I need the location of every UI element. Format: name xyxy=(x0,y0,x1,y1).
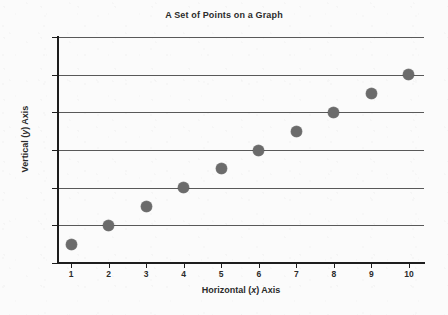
gridline-y-10 xyxy=(58,75,424,76)
y-tick-8 xyxy=(52,112,58,113)
x-tick-label-2: 2 xyxy=(89,269,129,279)
x-axis-label: Horizontal (x) Axis xyxy=(58,285,424,295)
x-tick-2 xyxy=(109,263,110,268)
x-tick-label-3: 3 xyxy=(126,269,166,279)
data-point xyxy=(253,145,264,156)
gridline-y-4 xyxy=(58,188,424,189)
x-tick-8 xyxy=(334,263,335,268)
x-tick-label-8: 8 xyxy=(314,269,354,279)
x-axis-line xyxy=(57,262,425,264)
x-tick-label-1: 1 xyxy=(51,269,91,279)
x-tick-1 xyxy=(71,263,72,268)
x-tick-3 xyxy=(146,263,147,268)
y-tick-6 xyxy=(52,150,58,151)
axis-variable: y xyxy=(20,130,30,135)
x-tick-9 xyxy=(371,263,372,268)
x-tick-5 xyxy=(221,263,222,268)
x-tick-label-6: 6 xyxy=(239,269,279,279)
data-point xyxy=(66,239,77,250)
x-tick-label-10: 10 xyxy=(389,269,429,279)
scatter-chart-figure: A Set of Points on a Graph Horizontal (x… xyxy=(0,0,448,315)
axis-variable: x xyxy=(251,285,256,295)
plot-area xyxy=(58,37,424,263)
data-point xyxy=(291,126,302,137)
gridline-y-12 xyxy=(58,37,424,38)
data-point xyxy=(141,201,152,212)
y-axis-label: Vertical (y) Axis xyxy=(20,64,30,214)
gridline-y-6 xyxy=(58,150,424,151)
x-tick-label-7: 7 xyxy=(276,269,316,279)
x-tick-label-9: 9 xyxy=(351,269,391,279)
y-tick-4 xyxy=(52,188,58,189)
data-point xyxy=(216,163,227,174)
x-tick-label-4: 4 xyxy=(164,269,204,279)
x-tick-4 xyxy=(184,263,185,268)
data-point xyxy=(366,88,377,99)
x-tick-label-5: 5 xyxy=(201,269,241,279)
x-tick-7 xyxy=(296,263,297,268)
y-tick-10 xyxy=(52,75,58,76)
chart-title: A Set of Points on a Graph xyxy=(0,10,448,20)
x-tick-6 xyxy=(259,263,260,268)
y-tick-0 xyxy=(52,263,58,264)
data-point xyxy=(103,220,114,231)
y-tick-12 xyxy=(52,37,58,38)
x-tick-10 xyxy=(409,263,410,268)
gridline-y-8 xyxy=(58,112,424,113)
y-tick-2 xyxy=(52,225,58,226)
